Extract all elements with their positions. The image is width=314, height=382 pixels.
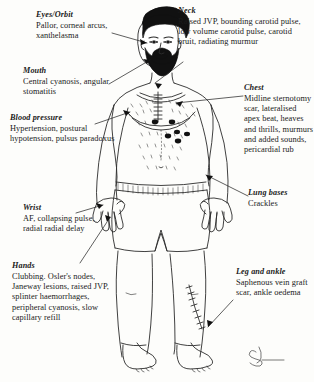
annotation-lung-bases: Lung bases Crackles xyxy=(248,188,314,209)
annotation-heading: Mouth xyxy=(23,66,131,76)
annotation-neck: Neck Raised JVP, bounding carotid pulse,… xyxy=(178,6,310,48)
right-hand xyxy=(200,198,232,232)
annotation-eyes-orbit: Eyes/Orbit Pallor, corneal arcus, xanthe… xyxy=(36,10,140,41)
annotation-blood-pressure: Blood pressure Hypertension, postural hy… xyxy=(10,113,116,144)
clinical-figure-diagram: Eyes/Orbit Pallor, corneal arcus, xanthe… xyxy=(0,0,314,382)
annotation-body: Clubbing. Osler's nodes, Janeway lesions… xyxy=(12,272,122,323)
annotation-wrist: Wrist AF, collapsing pulse, radial radia… xyxy=(23,203,115,234)
annotation-chest: Chest Midline sternotomy scar, lateralis… xyxy=(244,83,314,155)
annotation-hands: Hands Clubbing. Osler's nodes, Janeway l… xyxy=(12,261,122,323)
annotation-leg-and-ankle: Leg and ankle Saphenous vein graft scar,… xyxy=(236,267,314,298)
annotation-heading: Eyes/Orbit xyxy=(36,10,140,20)
artist-signature xyxy=(249,347,284,366)
annotation-mouth: Mouth Central cyanosis, angular stomatit… xyxy=(23,66,131,97)
annotation-heading: Blood pressure xyxy=(10,113,116,123)
annotation-body: Hypertension, postural hypotension, puls… xyxy=(10,124,116,144)
annotation-heading: Leg and ankle xyxy=(236,267,314,277)
annotation-body: Saphenous vein graft scar, ankle oedema xyxy=(236,278,314,298)
annotation-body: Midline sternotomy scar, lateralised ape… xyxy=(244,94,314,155)
sternotomy-scar xyxy=(154,92,162,122)
annotation-body: Crackles xyxy=(248,199,314,209)
annotation-body: Raised JVP, bounding carotid pulse, low … xyxy=(178,17,310,48)
annotation-heading: Lung bases xyxy=(248,188,314,198)
annotation-heading: Neck xyxy=(178,6,310,16)
annotation-heading: Hands xyxy=(12,261,122,271)
saphenous-graft-scar xyxy=(186,285,205,329)
annotation-body: Central cyanosis, angular stomatitis xyxy=(23,77,131,97)
annotation-body: Pallor, corneal arcus, xanthelasma xyxy=(36,21,140,41)
annotation-heading: Chest xyxy=(244,83,314,93)
annotation-body: AF, collapsing pulse, radial radial dela… xyxy=(23,214,115,234)
annotation-heading: Wrist xyxy=(23,203,115,213)
